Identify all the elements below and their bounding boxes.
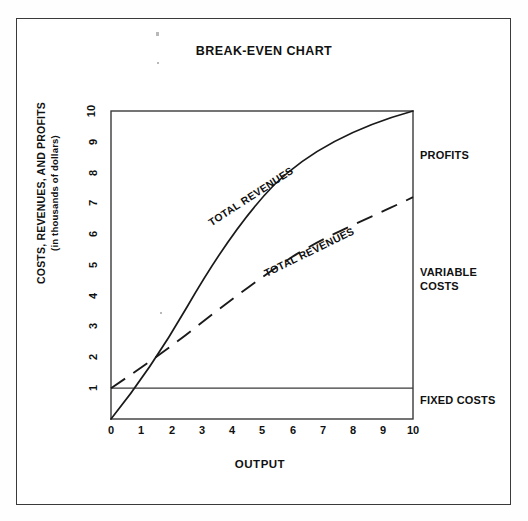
x-axis-title: OUTPUT (180, 458, 340, 470)
y-axis-title-main: COSTS, REVENUES, AND PROFITS (35, 102, 47, 284)
total-costs-curve (111, 197, 413, 388)
variable-costs-label: VARIABLE COSTS (420, 265, 477, 293)
x-tick-label: 1 (130, 424, 152, 436)
y-tick-label: 7 (87, 192, 99, 214)
break-even-figure: BREAK-EVEN CHART COSTS, REVENUES, AND PR… (0, 0, 528, 521)
x-tick-label: 0 (100, 424, 122, 436)
y-tick-label: 3 (87, 315, 99, 337)
x-tick-label: 10 (402, 424, 424, 436)
x-tick-label: 7 (312, 424, 334, 436)
y-axis-title: COSTS, REVENUES, AND PROFITS (in thousan… (35, 83, 61, 303)
y-tick-label: 5 (87, 254, 99, 276)
y-tick-label: 6 (87, 223, 99, 245)
x-tick-label: 5 (251, 424, 273, 436)
y-axis-title-sub: (in thousands of dollars) (48, 83, 61, 303)
y-tick-label: 2 (87, 346, 99, 368)
y-tick-label: 8 (87, 162, 99, 184)
x-tick-label: 9 (372, 424, 394, 436)
plot-frame (111, 111, 413, 419)
chart-plot (0, 0, 528, 521)
x-tick-label: 3 (191, 424, 213, 436)
y-tick-label: 1 (87, 377, 99, 399)
y-tick-label: 10 (85, 100, 97, 122)
total-revenues-curve (111, 111, 413, 419)
fixed-costs-label: FIXED COSTS (420, 393, 496, 407)
x-tick-label: 6 (282, 424, 304, 436)
y-tick-label: 4 (87, 285, 99, 307)
x-tick-label: 4 (221, 424, 243, 436)
x-tick-label: 8 (342, 424, 364, 436)
x-tick-label: 2 (161, 424, 183, 436)
y-tick-label: 9 (87, 131, 99, 153)
profits-label: PROFITS (420, 148, 469, 162)
